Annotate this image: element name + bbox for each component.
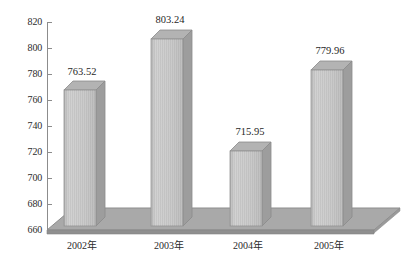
x-axis-label-2003: 2003年: [139, 240, 199, 251]
value-label-2002: 763.52: [52, 66, 112, 77]
value-label-2003: 803.24: [140, 14, 200, 25]
x-axis-label-2004: 2004年: [218, 240, 278, 251]
bar-2005: [0, 0, 407, 266]
chart-container: 820 800 780 760 740 720 700 680 660: [0, 0, 407, 266]
value-label-2005: 779.96: [300, 45, 360, 56]
value-label-2004: 715.95: [220, 126, 280, 137]
x-axis-label-2005: 2005年: [299, 240, 359, 251]
x-axis-label-2002: 2002年: [52, 240, 112, 251]
